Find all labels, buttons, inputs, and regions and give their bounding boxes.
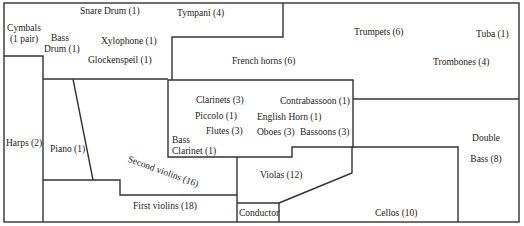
trumpets-label: Trumpets (6) xyxy=(354,27,404,38)
first-violins-top-line xyxy=(43,180,237,195)
double-bass-label-line1: Double xyxy=(462,133,510,144)
english-horn-label: English Horn (1) xyxy=(257,112,321,123)
bass-drum-label-line1: Bass xyxy=(44,33,76,44)
double-bass-label: Double Bass (8) xyxy=(462,133,510,165)
cymbals-label-line1: Cymbals xyxy=(6,23,42,34)
cymbals-label-line2: (1 pair) xyxy=(6,34,42,45)
tuba-label: Tuba (1) xyxy=(476,29,509,40)
piano-divider-line xyxy=(73,79,93,180)
contrabassoon-label: Contrabassoon (1) xyxy=(280,96,350,107)
clarinets-label: Clarinets (3) xyxy=(196,95,244,106)
glockenspiel-label: Glockenspeil (1) xyxy=(88,55,152,66)
conductor-label: Conductor xyxy=(239,208,279,219)
double-bass-label-line2: Bass (8) xyxy=(462,154,510,165)
bass-drum-label: Bass Drum (1) xyxy=(44,33,76,55)
trombones-label: Trombones (4) xyxy=(433,57,489,68)
bass-clarinet-label-line2: Clarinet (1) xyxy=(172,146,216,157)
cellos-label: Cellos (10) xyxy=(375,208,417,219)
violas-label: Violas (12) xyxy=(260,170,302,181)
xylophone-label: Xylophone (1) xyxy=(101,36,157,47)
bass-drum-label-line2: Drum (1) xyxy=(44,44,76,55)
bass-clarinet-label: Bass Clarinet (1) xyxy=(172,135,216,157)
cymbals-label: Cymbals (1 pair) xyxy=(6,23,42,45)
tympani-label: Tympani (4) xyxy=(177,8,224,19)
bassoons-label: Bassoons (3) xyxy=(300,127,349,138)
french-horns-label: French horns (6) xyxy=(232,56,295,67)
bass-clarinet-label-line1: Bass xyxy=(172,135,216,146)
piano-label: Piano (1) xyxy=(50,144,85,155)
piccolo-label: Piccolo (1) xyxy=(195,111,237,122)
oboes-label: Oboes (3) xyxy=(257,127,295,138)
snare-drum-label: Snare Drum (1) xyxy=(80,6,140,17)
first-violins-label: First violins (18) xyxy=(133,201,197,212)
harps-label: Harps (2) xyxy=(6,138,42,149)
